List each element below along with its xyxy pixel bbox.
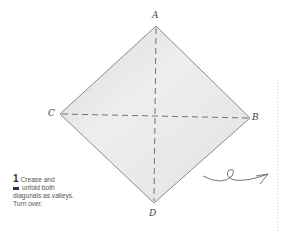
turn-over-arrow-icon bbox=[203, 170, 268, 184]
step-text-line4: Turn over. bbox=[13, 200, 133, 208]
step-text-line1: Crease and bbox=[21, 176, 55, 183]
label-a: A bbox=[152, 10, 159, 20]
step-number: 1 bbox=[13, 173, 19, 184]
step-underline-icon bbox=[13, 187, 19, 190]
label-d: D bbox=[149, 208, 156, 218]
step-text-line3: diagonals as valleys. bbox=[13, 192, 133, 200]
step-text-line2: unfold both bbox=[22, 184, 55, 191]
label-b: B bbox=[252, 112, 259, 122]
step-instruction: 1Crease and unfold both diagonals as val… bbox=[13, 175, 133, 208]
label-c: C bbox=[48, 108, 55, 118]
